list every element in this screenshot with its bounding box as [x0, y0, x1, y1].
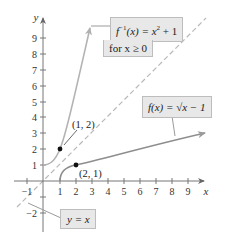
svg-text:8: 8	[170, 186, 175, 197]
svg-text:−2: −2	[26, 208, 37, 219]
svg-text:2: 2	[32, 144, 37, 155]
identity-line-label: y = x	[60, 209, 96, 229]
f-callout-leader	[172, 116, 175, 136]
svg-text:6: 6	[32, 81, 37, 92]
svg-text:5: 5	[122, 186, 127, 197]
svg-text:9: 9	[186, 186, 191, 197]
svg-text:4: 4	[32, 112, 37, 123]
identity-expression: y = x	[67, 213, 90, 225]
svg-text:−1: −1	[22, 186, 33, 197]
inverse-domain-label: for x ≥ 0	[103, 40, 153, 57]
svg-text:1: 1	[58, 186, 63, 197]
x-axis-label: x	[203, 185, 209, 197]
svg-text:9: 9	[32, 33, 37, 44]
point-b-label: (2, 1)	[79, 168, 102, 180]
function-expression: f(x) = √x − 1	[148, 101, 206, 113]
inverse-expression: (x) = x	[127, 25, 157, 37]
point-a-label: (1, 2)	[72, 119, 95, 131]
y-axis-label: y	[33, 11, 39, 23]
svg-text:7: 7	[32, 65, 37, 76]
svg-text:6: 6	[138, 186, 143, 197]
svg-text:1: 1	[32, 160, 37, 171]
svg-text:2: 2	[74, 186, 79, 197]
domain-condition: for x ≥ 0	[109, 42, 147, 54]
point-1-2	[58, 147, 63, 152]
function-label: f(x) = √x − 1	[142, 96, 212, 118]
svg-text:3: 3	[32, 128, 37, 139]
point-2-1	[74, 163, 79, 168]
svg-text:4: 4	[106, 186, 111, 197]
inverse-superscript: −1	[119, 24, 126, 32]
svg-text:5: 5	[32, 97, 37, 108]
svg-text:8: 8	[32, 49, 37, 60]
svg-text:7: 7	[154, 186, 159, 197]
inverse-function-label: f−1(x) = x2 + 1	[110, 17, 183, 42]
inverse-function-curve	[43, 28, 90, 165]
x-tick-labels: −1 1 2 3 4 5 6 7 8 9	[22, 186, 191, 197]
inverse-tail: + 1	[160, 25, 177, 37]
svg-text:3: 3	[90, 186, 95, 197]
